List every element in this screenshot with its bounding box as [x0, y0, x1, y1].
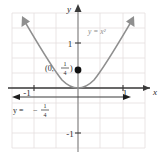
y-tick-label-neg1: -1	[66, 129, 74, 139]
parabola-figure: y x -1 1 1 -1 y = x² (0, 1 4 ) y = − 1 4	[0, 0, 163, 155]
parabola-arrow-right	[126, 16, 135, 27]
directrix-label-minus: −	[33, 106, 38, 115]
y-axis-arrow	[75, 4, 82, 12]
parabola-arrow-left	[22, 16, 31, 27]
curve-equation-label: y = x²	[87, 27, 106, 36]
x-tick-label-neg1: -1	[23, 88, 31, 98]
graph-canvas: y x -1 1 1 -1 y = x² (0, 1 4 ) y = − 1 4	[0, 0, 163, 155]
y-tick-label-pos1: 1	[68, 39, 73, 49]
directrix-arrow-left	[12, 94, 20, 100]
focus-label-denominator: 4	[64, 70, 67, 76]
x-axis-label: x	[152, 87, 157, 97]
directrix-label-denominator: 4	[44, 112, 47, 118]
y-axis	[75, 4, 82, 152]
focus-point	[75, 67, 82, 74]
focus-label-numerator: 1	[64, 61, 67, 67]
directrix-equation-label: y = − 1 4	[13, 103, 49, 118]
focus-label-prefix: (0,	[45, 64, 54, 73]
focus-point-label: (0, 1 4 )	[45, 61, 73, 76]
directrix-label-numerator: 1	[44, 103, 47, 109]
x-axis-arrow	[143, 85, 150, 91]
x-tick-label-pos1: 1	[123, 88, 128, 98]
focus-label-suffix: )	[70, 64, 73, 73]
y-axis-label: y	[66, 4, 71, 14]
directrix-label-prefix: y =	[13, 106, 24, 115]
